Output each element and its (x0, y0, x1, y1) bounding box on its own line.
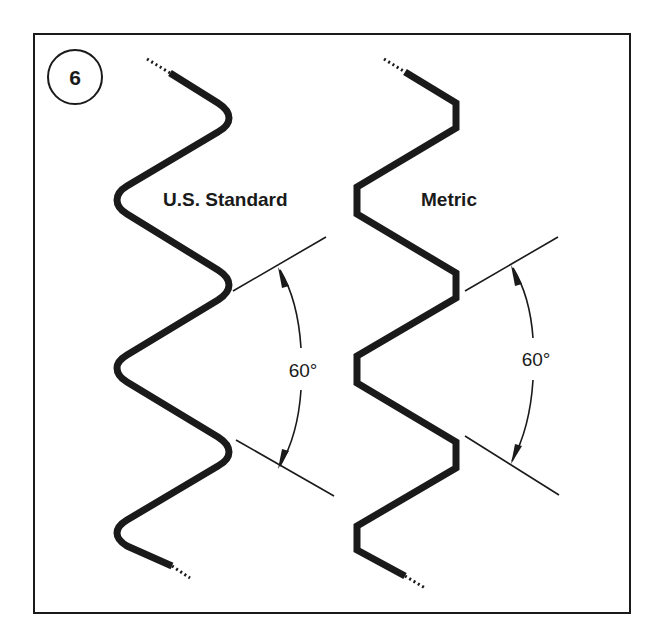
figure-number: 6 (69, 66, 81, 89)
metric-angle-label: 60° (522, 349, 551, 370)
us-standard-angle-annotation: 60° (233, 237, 334, 496)
us-standard-label: U.S. Standard (163, 189, 288, 210)
metric-label: Metric (421, 189, 477, 210)
figure-number-badge: 6 (48, 50, 102, 104)
us-standard-thread-profile (117, 59, 229, 578)
arrowhead-up-icon (511, 265, 522, 286)
arrowhead-up-icon (278, 267, 289, 288)
metric-thread-profile (357, 59, 456, 588)
metric-angle-annotation: 60° (465, 237, 559, 495)
us-standard-angle-label: 60° (289, 360, 318, 381)
arrowhead-down-icon (511, 444, 522, 464)
arrowhead-down-icon (278, 449, 289, 469)
